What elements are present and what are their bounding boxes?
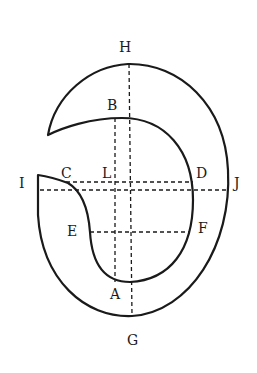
label-B: B bbox=[107, 98, 117, 112]
label-F: F bbox=[198, 221, 208, 235]
label-A: A bbox=[110, 287, 120, 301]
label-I: I bbox=[19, 176, 25, 190]
diagram-canvas bbox=[0, 0, 257, 373]
label-E: E bbox=[67, 224, 77, 238]
label-L: L bbox=[102, 166, 111, 180]
label-J: J bbox=[234, 176, 240, 190]
label-G: G bbox=[127, 333, 138, 347]
label-D: D bbox=[196, 166, 207, 180]
label-H: H bbox=[119, 40, 131, 54]
label-C: C bbox=[61, 166, 72, 180]
diagram-figure: H B I C L D J E F A G bbox=[0, 0, 257, 373]
